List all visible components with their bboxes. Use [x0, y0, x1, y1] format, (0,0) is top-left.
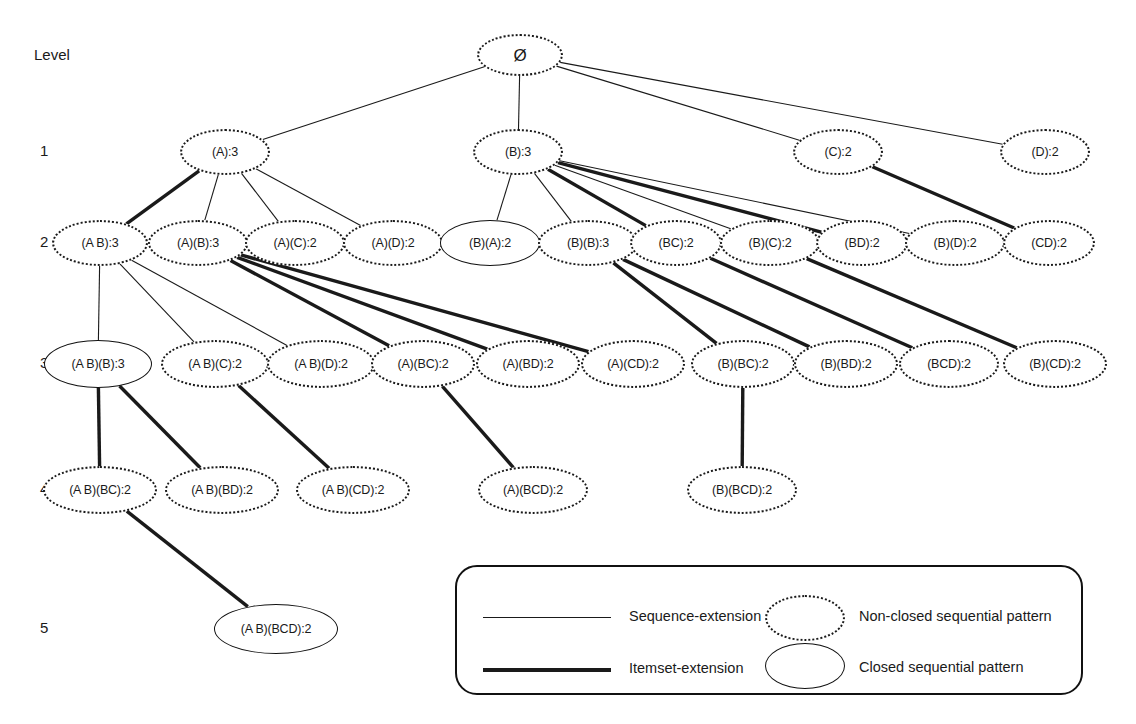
node-label: (B)(B):3: [567, 237, 609, 250]
node-level3-9[interactable]: (BCD):2: [899, 340, 999, 388]
itemset-extension-edge: [239, 386, 330, 469]
node-label: (A B)(BC):2: [69, 484, 131, 497]
node-level3-6[interactable]: (A)(CD):2: [581, 340, 685, 388]
legend-closed-label: Closed sequential pattern: [859, 659, 1023, 675]
legend-itemset-label: Itemset-extension: [629, 660, 743, 676]
node-label: (A B):3: [82, 237, 119, 250]
node-label: (D):2: [1032, 146, 1059, 159]
node-label: (A B)(BCD):2: [241, 623, 312, 636]
node-label: (A)(D):2: [372, 237, 415, 250]
node-label: (B)(A):2: [469, 237, 511, 250]
sequence-extension-edge: [98, 266, 99, 340]
node-label: Ø: [513, 47, 526, 64]
node-level1-1[interactable]: (A):3: [180, 129, 270, 175]
node-level2-7[interactable]: (BC):2: [630, 220, 722, 266]
sequence-extension-edge: [120, 264, 194, 342]
node-level3-4[interactable]: (A)(BC):2: [371, 340, 475, 388]
node-root-empty-set[interactable]: Ø: [477, 34, 563, 76]
node-level2-1[interactable]: (A B):3: [52, 220, 148, 266]
diagram-canvas: Level12345 Ø(A):3(B):3(C):2(D):2(A B):3(…: [0, 0, 1136, 724]
node-label: (A B)(D):2: [294, 358, 348, 371]
legend-nonclosed-ellipse: [765, 595, 845, 641]
sequence-extension-edge: [242, 173, 279, 221]
legend-sequence-line: [483, 617, 611, 618]
legend-itemset-line: [483, 668, 611, 672]
itemset-extension-edge: [548, 169, 646, 225]
node-label: (B):3: [505, 146, 531, 159]
node-level2-3[interactable]: (A)(C):2: [245, 220, 345, 266]
itemset-extension-edge: [742, 388, 743, 466]
level-number-1: 1: [40, 142, 48, 159]
node-label: (A)(CD):2: [607, 358, 659, 371]
node-label: (BC):2: [659, 237, 694, 250]
itemset-extension-edge: [126, 171, 199, 224]
node-level4-5[interactable]: (B)(BCD):2: [687, 466, 797, 514]
node-level3-2[interactable]: (A B)(C):2: [161, 340, 269, 388]
node-label: (BCD):2: [927, 358, 971, 371]
itemset-extension-edge: [807, 259, 1017, 348]
itemset-extension-edge: [237, 257, 487, 349]
node-label: (A)(BD):2: [503, 358, 554, 371]
node-label: (A B)(B):3: [72, 358, 125, 371]
node-level2-10[interactable]: (B)(D):2: [905, 220, 1005, 266]
itemset-extension-edge: [241, 255, 589, 352]
itemset-extension-edge: [623, 259, 810, 347]
sequence-extension-edge: [132, 260, 287, 345]
itemset-extension-edge: [613, 263, 716, 344]
node-label: (A B)(CD):2: [322, 484, 384, 497]
level-number-2: 2: [40, 233, 48, 250]
node-level4-3[interactable]: (A B)(CD):2: [296, 466, 410, 514]
node-label: (B)(D):2: [934, 237, 977, 250]
node-label: (A)(BCD):2: [503, 484, 563, 497]
node-level3-5[interactable]: (A)(BD):2: [476, 340, 580, 388]
sequence-extension-edge: [256, 169, 361, 226]
itemset-extension-edge: [710, 258, 912, 347]
sequence-extension-edge: [497, 175, 511, 221]
legend-closed-ellipse: [765, 643, 845, 689]
node-level2-8[interactable]: (B)(C):2: [720, 220, 820, 266]
node-level1-2[interactable]: (B):3: [473, 129, 563, 175]
legend-sequence-label: Sequence-extension: [629, 608, 761, 624]
node-label: (B)(C):2: [749, 237, 792, 250]
sequence-extension-edge: [557, 66, 800, 140]
node-label: (A B)(C):2: [188, 358, 242, 371]
node-level5-1[interactable]: (A B)(BCD):2: [214, 604, 338, 654]
node-label: (B)(BCD):2: [712, 484, 772, 497]
node-level4-2[interactable]: (A B)(BD):2: [165, 466, 279, 514]
itemset-extension-edge: [98, 388, 99, 466]
itemset-extension-edge: [120, 386, 201, 468]
node-label: (A)(BC):2: [398, 358, 449, 371]
node-label: (B)(BD):2: [821, 358, 872, 371]
sequence-extension-edge: [560, 62, 1003, 144]
itemset-extension-edge: [872, 167, 1014, 228]
sequence-extension-edge: [205, 175, 219, 221]
sequence-extension-edge: [263, 67, 485, 140]
node-level4-4[interactable]: (A)(BCD):2: [478, 466, 588, 514]
itemset-extension-edge: [127, 511, 248, 607]
node-label: (A):3: [212, 146, 238, 159]
node-level1-3[interactable]: (C):2: [793, 129, 883, 175]
legend-nonclosed-label: Non-closed sequential pattern: [859, 608, 1052, 624]
node-level2-11[interactable]: (CD):2: [1003, 220, 1095, 266]
itemset-extension-edge: [442, 386, 513, 467]
node-label: (B)(BC):2: [718, 358, 769, 371]
level-number-5: 5: [40, 619, 48, 636]
node-label: (C):2: [825, 146, 852, 159]
node-level3-10[interactable]: (B)(CD):2: [1003, 340, 1107, 388]
node-level2-2[interactable]: (A)(B):3: [148, 220, 248, 266]
node-level4-1[interactable]: (A B)(BC):2: [43, 466, 157, 514]
node-level2-4[interactable]: (A)(D):2: [343, 220, 443, 266]
node-label: (BD):2: [845, 237, 880, 250]
node-level3-1[interactable]: (A B)(B):3: [44, 340, 152, 388]
node-level3-8[interactable]: (B)(BD):2: [794, 340, 898, 388]
node-level2-9[interactable]: (BD):2: [816, 220, 908, 266]
node-level2-6[interactable]: (B)(B):3: [538, 220, 638, 266]
node-level1-4[interactable]: (D):2: [1000, 129, 1090, 175]
node-level3-3[interactable]: (A B)(D):2: [267, 340, 375, 388]
node-level3-7[interactable]: (B)(BC):2: [691, 340, 795, 388]
node-label: (A)(C):2: [274, 237, 317, 250]
node-level2-5[interactable]: (B)(A):2: [440, 220, 540, 266]
sequence-extension-edge: [519, 76, 520, 129]
legend-box: Sequence-extension Non-closed sequential…: [455, 565, 1083, 695]
level-column-heading: Level: [34, 46, 70, 63]
